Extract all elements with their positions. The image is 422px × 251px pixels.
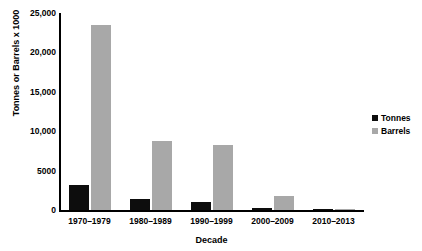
chart-legend: TonnesBarrels <box>372 112 411 138</box>
y-axis-tick-label: 20,000 <box>12 47 56 57</box>
bar-barrels <box>213 145 233 210</box>
x-axis-tick-label: 1970–1979 <box>68 216 111 226</box>
y-axis-tick-label: 25,000 <box>12 8 56 18</box>
x-axis-tick-label: 2000–2009 <box>251 216 294 226</box>
bar-tonnes <box>191 202 211 210</box>
legend-item: Tonnes <box>372 112 411 124</box>
x-axis-line <box>59 210 364 212</box>
bar-barrels <box>335 209 355 210</box>
y-axis-tick-label: 15,000 <box>12 87 56 97</box>
bar-group <box>303 13 364 210</box>
bar-barrels <box>274 196 294 210</box>
bar-chart-figure: Tonnes or Barrels x 1000 0500010,00015,0… <box>0 0 422 251</box>
y-axis-tick-label: 10,000 <box>12 126 56 136</box>
legend-label: Tonnes <box>381 113 411 123</box>
bar-group <box>242 13 303 210</box>
bar-tonnes <box>313 209 333 210</box>
y-axis-tick-labels: 0500010,00015,00020,00025,000 <box>12 0 56 251</box>
bar-group <box>59 13 120 210</box>
legend-item: Barrels <box>372 125 411 137</box>
bar-tonnes <box>69 185 89 210</box>
bar-tonnes <box>252 208 272 210</box>
bar-group <box>181 13 242 210</box>
y-axis-tick-label: 0 <box>12 205 56 215</box>
bar-barrels <box>91 25 111 210</box>
x-axis-tick-label: 1980–1989 <box>129 216 172 226</box>
legend-label: Barrels <box>381 126 410 136</box>
plot-area: 1970–19791980–19891990–19992000–20092010… <box>59 13 364 210</box>
x-axis-tick-label: 2010–2013 <box>312 216 355 226</box>
bar-barrels <box>152 141 172 210</box>
legend-swatch-icon <box>372 115 378 121</box>
bar-tonnes <box>130 199 150 210</box>
y-axis-tick-label: 5000 <box>12 166 56 176</box>
bar-group <box>120 13 181 210</box>
x-axis-tick-label: 1990–1999 <box>190 216 233 226</box>
x-axis-title: Decade <box>59 235 364 245</box>
legend-swatch-icon <box>372 128 378 134</box>
